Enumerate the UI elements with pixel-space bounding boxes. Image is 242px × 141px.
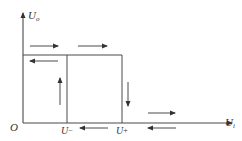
u-minus-label: U− xyxy=(61,125,73,136)
u-plus-label: U+ xyxy=(116,125,128,136)
origin-label: O xyxy=(10,121,18,133)
x-axis-label: Ui xyxy=(225,116,235,130)
direction-arrows xyxy=(30,46,176,128)
hysteresis-diagram: Uo Ui O U− U+ xyxy=(0,0,242,141)
hysteresis-loop xyxy=(23,55,122,123)
y-axis-label: Uo xyxy=(28,9,40,23)
